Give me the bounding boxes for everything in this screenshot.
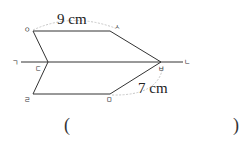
label-n: ㄴ <box>184 58 190 66</box>
measurement-top: 9 cm <box>57 11 87 27</box>
label-g: ㄱ <box>12 59 18 67</box>
answer-blank[interactable] <box>75 118 233 136</box>
answer-close-paren: ) <box>233 115 239 136</box>
label-d: ㄷ <box>35 65 41 73</box>
label-r: ㄹ <box>24 96 30 104</box>
answer-open-paren: ( <box>64 115 70 136</box>
label-s: ㅅ <box>114 23 120 31</box>
measurement-bottom-right: 7 cm <box>138 80 168 96</box>
label-o: ㅇ <box>24 26 30 34</box>
label-m: ㅁ <box>106 96 112 104</box>
edge-o-d <box>33 31 48 62</box>
label-b: ㅂ <box>158 65 164 73</box>
upper-edges <box>33 31 161 62</box>
